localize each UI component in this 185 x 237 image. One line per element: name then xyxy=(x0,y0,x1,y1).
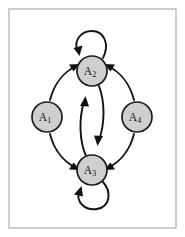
node-a4[interactable]: A4 xyxy=(122,102,152,132)
node-a3[interactable]: A3 xyxy=(77,155,107,185)
node-a1[interactable]: A1 xyxy=(32,102,62,132)
node-a2[interactable]: A2 xyxy=(77,56,107,86)
figure-root: A1 A2 A3 A4 xyxy=(0,0,185,237)
state-transition-diagram: A1 A2 A3 A4 xyxy=(0,0,185,237)
